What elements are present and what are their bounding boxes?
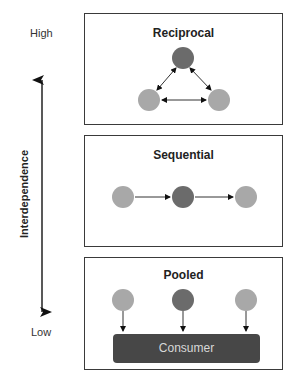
sequential-node-1 <box>112 186 134 208</box>
reciprocal-links <box>157 68 211 100</box>
reciprocal-node-left <box>138 89 160 111</box>
reciprocal-node-top <box>172 47 194 69</box>
pooled-links <box>123 311 246 331</box>
reciprocal-node-right <box>208 89 230 111</box>
sequential-node-2 <box>172 186 194 208</box>
pooled-node-3 <box>235 289 257 311</box>
pooled-node-2 <box>172 289 194 311</box>
pooled-node-1 <box>112 289 134 311</box>
diagram-graphics <box>0 0 296 383</box>
sequential-node-3 <box>235 186 257 208</box>
